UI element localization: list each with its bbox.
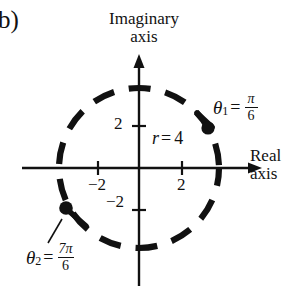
tick-label-y-neg2: −2 xyxy=(106,192,124,212)
radius-symbol: r xyxy=(152,128,159,148)
radius-value: 4 xyxy=(174,128,183,148)
theta1-equals: = xyxy=(230,97,240,118)
theta2-denominator: 6 xyxy=(61,258,70,273)
tick-label-x-pos2: 2 xyxy=(177,175,186,195)
point-z2 xyxy=(59,201,73,215)
theta2-fraction: 7π 6 xyxy=(58,242,74,273)
tick-label-x-neg2: −2 xyxy=(88,175,106,195)
real-axis-arrowhead xyxy=(248,163,262,174)
radius-equals: = xyxy=(161,128,171,148)
theta1-denominator: 6 xyxy=(247,108,256,123)
theta1-annotation: θ1= π 6 xyxy=(213,92,258,123)
imaginary-axis-arrowhead xyxy=(134,54,145,68)
tick-label-y-pos2: 2 xyxy=(114,114,123,134)
complex-plane-figure: b) Imaginary axis Real axis −2 2 2 xyxy=(0,0,301,293)
theta2-numerator: 7π xyxy=(58,242,74,257)
theta1-numerator: π xyxy=(246,92,255,107)
theta2-subscript: 2 xyxy=(35,254,41,269)
theta1-symbol: θ xyxy=(213,97,222,119)
theta1-fraction: π 6 xyxy=(245,92,258,123)
radius-annotation: r=4 xyxy=(152,128,183,149)
theta2-equals: = xyxy=(43,247,53,268)
theta2-symbol: θ xyxy=(26,247,35,269)
leader-line-theta2 xyxy=(48,219,62,243)
theta2-annotation: θ2= 7π 6 xyxy=(26,242,74,273)
theta1-subscript: 1 xyxy=(222,104,228,119)
